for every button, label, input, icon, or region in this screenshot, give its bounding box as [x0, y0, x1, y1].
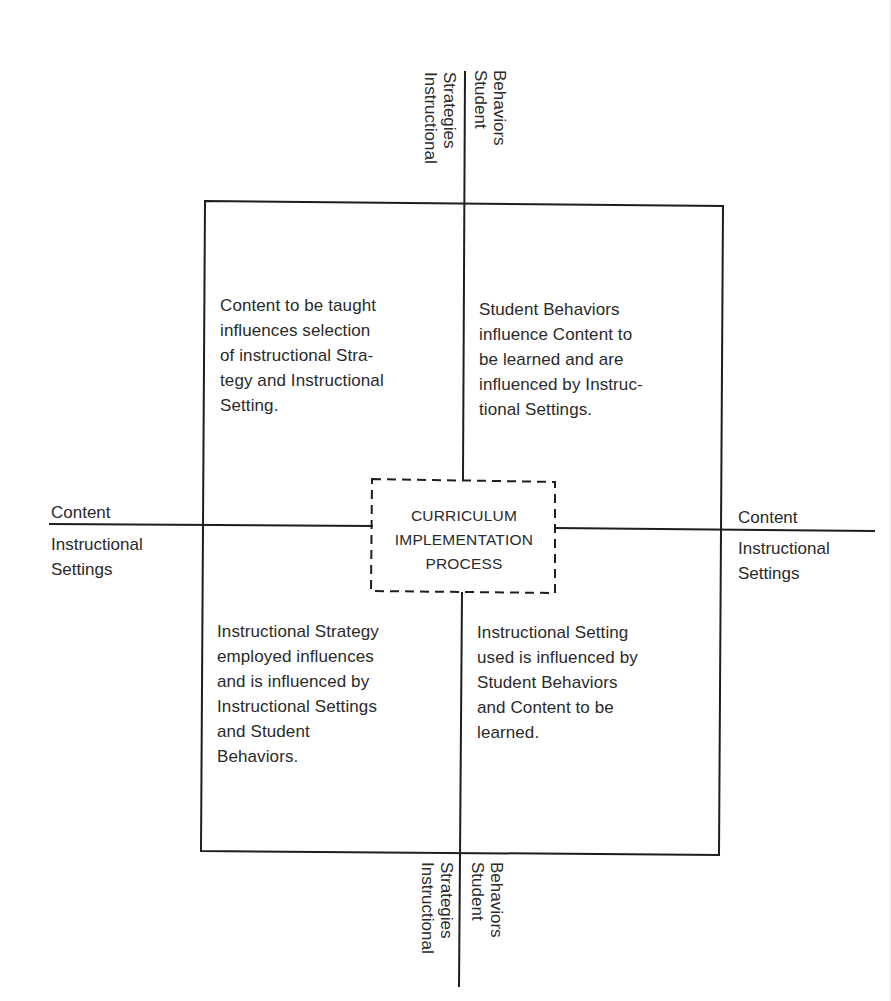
quadrant-top-right-text: Student Behaviors influence Content to b… [479, 297, 719, 422]
quadrant-bottom-left-text: Instructional Strategy employed influenc… [217, 619, 457, 769]
left-axis-label-lower: Instructional Settings [51, 532, 143, 582]
left-axis-label-upper: Content [51, 500, 111, 525]
vertical-axis-top [463, 72, 465, 479]
bottom-axis-label-left: StrategiesInstructional [418, 862, 456, 954]
horizontal-axis-right [555, 528, 874, 531]
right-axis-label-lower: Instructional Settings [738, 536, 830, 586]
vlabel-line: Student [471, 70, 490, 146]
center-process-label: CURRICULUM IMPLEMENTATION PROCESS [374, 504, 554, 576]
vlabel-line: Strategies [440, 72, 459, 164]
vlabel-line: Behaviors [487, 862, 506, 938]
vertical-axis-bottom [459, 593, 462, 986]
quadrant-top-left-text: Content to be taught influences selectio… [220, 293, 460, 418]
vlabel-line: Instructional [418, 862, 437, 954]
right-axis-label-upper: Content [738, 505, 798, 530]
top-axis-label-right: BehaviorsStudent [471, 70, 509, 146]
vlabel-line: Student [468, 862, 487, 938]
quadrant-bottom-right-text: Instructional Setting used is influenced… [477, 620, 717, 745]
vlabel-line: Behaviors [490, 70, 509, 146]
top-axis-label-left: StrategiesInstructional [421, 72, 459, 164]
bottom-axis-label-right: BehaviorsStudent [468, 862, 506, 938]
vlabel-line: Instructional [421, 72, 440, 164]
vlabel-line: Strategies [437, 862, 456, 954]
